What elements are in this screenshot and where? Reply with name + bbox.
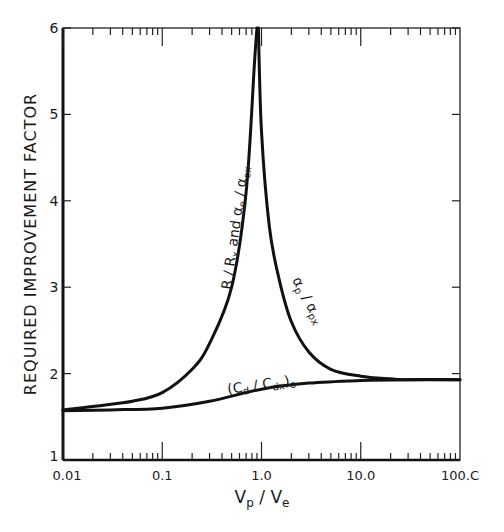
annotation-alpha-p: αp / αpx [288, 274, 328, 327]
x-tick-label: 100.C [441, 468, 479, 483]
plot-frame [63, 28, 460, 460]
y-tick-label: 4 [50, 193, 59, 209]
x-tick-label: 0.1 [152, 468, 173, 483]
y-axis-tick-labels: 123456 [50, 20, 59, 464]
annotation-r-rx-alpha-e: R / Rx and αe / αex [218, 165, 253, 291]
annotation-cd-cdx: (Cd / Cdx)o [226, 372, 297, 399]
y-tick-label: 6 [50, 20, 59, 36]
x-axis-label: Vp / Ve [235, 487, 290, 510]
y-tick-label: 1 [50, 448, 59, 464]
x-tick-label: 0.01 [53, 468, 82, 483]
x-tick-label: 1.0 [251, 468, 272, 483]
y-axis-ticks [63, 28, 460, 460]
y-tick-label: 2 [50, 366, 59, 382]
y-tick-label: 5 [50, 106, 59, 122]
y-tick-label: 3 [50, 279, 59, 295]
curve-alpha-p [258, 28, 460, 380]
chart: 0.010.11.010.0100.C 123456 Vp / Ve REQUI… [0, 0, 504, 532]
x-axis-tick-labels: 0.010.11.010.0100.C [53, 468, 479, 483]
y-axis-label: REQUIRED IMPROVEMENT FACTOR [21, 93, 40, 395]
data-curves [63, 28, 460, 411]
x-tick-label: 10.0 [346, 468, 375, 483]
